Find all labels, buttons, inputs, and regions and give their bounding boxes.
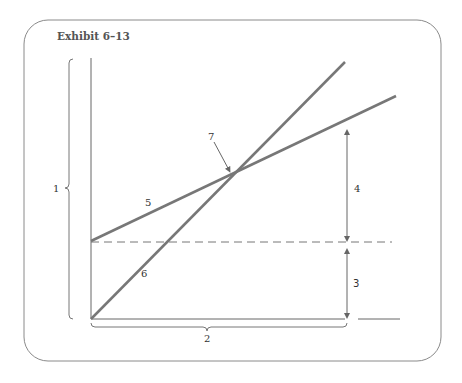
label-5: 5 (145, 197, 151, 208)
left-brace (65, 59, 73, 319)
bottom-brace (91, 323, 347, 331)
line-6 (91, 62, 345, 319)
label-2: 2 (204, 333, 210, 344)
exhibit-diagram: Exhibit 6–13 1 5 6 7 4 3 2 (0, 0, 462, 383)
label-3: 3 (353, 278, 359, 289)
label-6: 6 (141, 268, 147, 279)
line-5 (91, 96, 396, 241)
pointer-7 (214, 142, 229, 170)
label-1: 1 (53, 183, 59, 194)
exhibit-title: Exhibit 6–13 (57, 30, 130, 42)
exhibit-frame (24, 20, 441, 361)
label-7: 7 (208, 131, 214, 142)
label-4: 4 (354, 183, 360, 194)
